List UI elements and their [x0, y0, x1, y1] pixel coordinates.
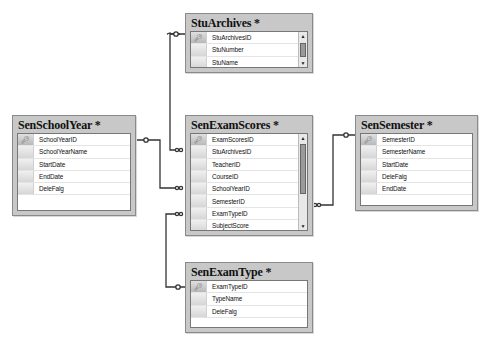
- table-title: SenSchoolYear *: [13, 116, 135, 132]
- table-stuarchives[interactable]: StuArchives * 🔑︎StuArchivesID StuNumber …: [185, 13, 313, 73]
- key-icon: 🔑︎: [364, 136, 373, 143]
- row-selector: 🔑︎: [191, 32, 207, 43]
- row-selector: [18, 183, 34, 194]
- table-title: SenExamType *: [186, 263, 312, 279]
- column-name: SemesterName: [377, 148, 425, 155]
- column-row[interactable]: EndDate: [18, 171, 130, 183]
- column-name: SemesterID: [207, 198, 245, 205]
- scroll-up-arrow-icon[interactable]: ▲: [299, 32, 307, 40]
- column-row[interactable]: CourseID: [191, 171, 307, 183]
- column-row[interactable]: EndDate: [361, 183, 472, 195]
- column-name: ExamTypeID: [207, 283, 248, 290]
- relationship-schoolyear-examscores[interactable]: [135, 138, 183, 190]
- row-selector: [191, 57, 207, 68]
- relationship-semester-examscores[interactable]: [313, 133, 355, 207]
- column-row[interactable]: 🔑︎SemesterID: [361, 134, 472, 146]
- key-icon: 🔑︎: [194, 34, 203, 41]
- column-name: StuName: [207, 59, 238, 66]
- column-name: StartDate: [377, 161, 408, 168]
- column-row[interactable]: StuName: [191, 57, 307, 68]
- column-name: SchoolYearName: [34, 148, 87, 155]
- row-selector: [361, 146, 377, 157]
- column-row[interactable]: StuArchivesID: [191, 146, 307, 158]
- column-name: DeleFalg: [377, 173, 407, 180]
- column-name: ExamTypeID: [207, 210, 248, 217]
- column-row[interactable]: 🔑︎SchoolYearID: [18, 134, 130, 146]
- column-list: 🔑︎SchoolYearID SchoolYearName StartDate …: [17, 133, 131, 211]
- row-selector: [361, 159, 377, 170]
- column-name: SemesterID: [377, 136, 415, 143]
- row-selector: 🔑︎: [191, 281, 207, 292]
- column-row[interactable]: SchoolYearName: [18, 146, 130, 158]
- column-name: EndDate: [377, 185, 406, 192]
- table-sensemester[interactable]: SenSemester * 🔑︎SemesterID SemesterName …: [355, 115, 478, 211]
- column-row[interactable]: TypeName: [191, 293, 307, 305]
- row-selector: [191, 44, 207, 55]
- column-name: StartDate: [34, 161, 65, 168]
- column-list: 🔑︎ExamScoresID StuArchivesID TeacherID C…: [190, 133, 308, 231]
- column-row[interactable]: DeleFalg: [18, 183, 130, 195]
- row-selector: [361, 171, 377, 182]
- row-selector: 🔑︎: [361, 134, 377, 145]
- column-name: StuNumber: [207, 46, 243, 53]
- column-row[interactable]: 🔑︎ExamScoresID: [191, 134, 307, 146]
- column-row[interactable]: 🔑︎ExamTypeID: [191, 281, 307, 293]
- column-row[interactable]: TeacherID: [191, 159, 307, 171]
- column-row[interactable]: DeleFalg: [191, 306, 307, 318]
- column-name: CourseID: [207, 173, 238, 180]
- column-name: StuArchivesID: [207, 148, 251, 155]
- table-senexamtype[interactable]: SenExamType * 🔑︎ExamTypeID TypeName Dele…: [185, 262, 313, 333]
- key-icon: 🔑︎: [194, 283, 203, 290]
- row-selector: [191, 306, 207, 317]
- scroll-thumb[interactable]: [300, 43, 306, 57]
- column-row[interactable]: SubjectScore: [191, 220, 307, 231]
- column-row[interactable]: StuNumber: [191, 44, 307, 56]
- column-name: SchoolYearID: [207, 185, 250, 192]
- column-name: ExamScoresID: [207, 136, 253, 143]
- row-selector: [191, 183, 207, 194]
- row-selector: [191, 146, 207, 157]
- column-name: DeleFalg: [207, 308, 237, 315]
- scroll-down-arrow-icon[interactable]: ▼: [299, 59, 307, 67]
- table-title: StuArchives *: [186, 14, 312, 30]
- row-selector: [18, 171, 34, 182]
- row-selector: 🔑︎: [191, 134, 207, 145]
- scroll-down-arrow-icon[interactable]: ▼: [299, 222, 307, 230]
- column-name: SchoolYearID: [34, 136, 77, 143]
- table-senexamscores[interactable]: SenExamScores * 🔑︎ExamScoresID StuArchiv…: [185, 115, 313, 236]
- row-selector: [191, 159, 207, 170]
- row-selector: [191, 293, 207, 304]
- column-row[interactable]: SemesterName: [361, 146, 472, 158]
- row-selector: 🔑︎: [18, 134, 34, 145]
- table-senschoolyear[interactable]: SenSchoolYear * 🔑︎SchoolYearID SchoolYea…: [12, 115, 136, 216]
- scroll-thumb[interactable]: [300, 144, 306, 194]
- table-title: SenExamScores *: [186, 116, 312, 132]
- column-list: 🔑︎StuArchivesID StuNumber StuName ▲ ▼: [190, 31, 308, 68]
- row-selector: [361, 183, 377, 194]
- column-row[interactable]: StartDate: [18, 159, 130, 171]
- row-selector: [191, 220, 207, 231]
- column-row[interactable]: DeleFalg: [361, 171, 472, 183]
- column-row[interactable]: SchoolYearID: [191, 183, 307, 195]
- column-list: 🔑︎SemesterID SemesterName StartDate Dele…: [360, 133, 473, 206]
- column-name: StuArchivesID: [207, 34, 251, 41]
- row-selector: [191, 208, 207, 219]
- row-selector: [191, 171, 207, 182]
- relationship-stuarchives-examscores[interactable]: [167, 32, 185, 152]
- relationship-examtype-examscores[interactable]: [166, 212, 185, 289]
- scroll-up-arrow-icon[interactable]: ▲: [299, 134, 307, 142]
- key-icon: 🔑︎: [194, 136, 203, 143]
- table-title: SenSemester *: [356, 116, 477, 132]
- column-name: EndDate: [34, 173, 63, 180]
- column-list: 🔑︎ExamTypeID TypeName DeleFalg: [190, 280, 308, 328]
- column-row[interactable]: StartDate: [361, 159, 472, 171]
- column-name: TypeName: [207, 295, 242, 302]
- vertical-scrollbar[interactable]: ▲ ▼: [298, 134, 307, 230]
- vertical-scrollbar[interactable]: ▲ ▼: [298, 32, 307, 67]
- column-row[interactable]: ExamTypeID: [191, 208, 307, 220]
- column-name: TeacherID: [207, 161, 240, 168]
- column-row[interactable]: SemesterID: [191, 195, 307, 207]
- column-name: SubjectScore: [207, 222, 249, 229]
- column-row[interactable]: 🔑︎StuArchivesID: [191, 32, 307, 44]
- row-selector: [191, 195, 207, 206]
